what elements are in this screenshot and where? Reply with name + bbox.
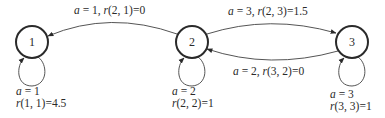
self-loop-1 (19, 57, 45, 86)
state-label-2: 2 (189, 35, 195, 49)
edge-3-to-2 (207, 49, 338, 60)
state-label-1: 1 (29, 35, 35, 49)
state-node-2: 2 (176, 26, 208, 58)
edge-label-2-to-1: a = 1, r(2, 1)=0 (74, 4, 145, 17)
edge-label-3-to-2: a = 2, r(3, 2)=0 (233, 65, 304, 78)
loop-label-3-reward: r(3, 3)=1 (330, 100, 372, 113)
loop-label-1-reward: r(1, 1)=4.5 (16, 97, 67, 110)
state-node-1: 1 (16, 26, 48, 58)
loop-label-2-action: a = 2 (172, 85, 196, 97)
edge-2-to-3 (207, 24, 336, 34)
self-loop-2 (179, 57, 205, 86)
loop-label-3-action: a = 3 (330, 88, 354, 100)
state-label-3: 3 (349, 35, 355, 49)
loop-label-1-action: a = 1 (16, 85, 40, 97)
edge-label-2-to-3: a = 3, r(2, 3)=1.5 (228, 5, 308, 18)
mdp-diagram: 1 2 3 a = 1, r(2, 1)=0 a = 3, r(2, 3)=1.… (0, 0, 385, 118)
loop-label-2-reward: r(2, 2)=1 (172, 97, 214, 110)
state-node-3: 3 (336, 26, 368, 58)
edge-2-to-1 (48, 22, 177, 36)
self-loop-3 (339, 57, 365, 86)
